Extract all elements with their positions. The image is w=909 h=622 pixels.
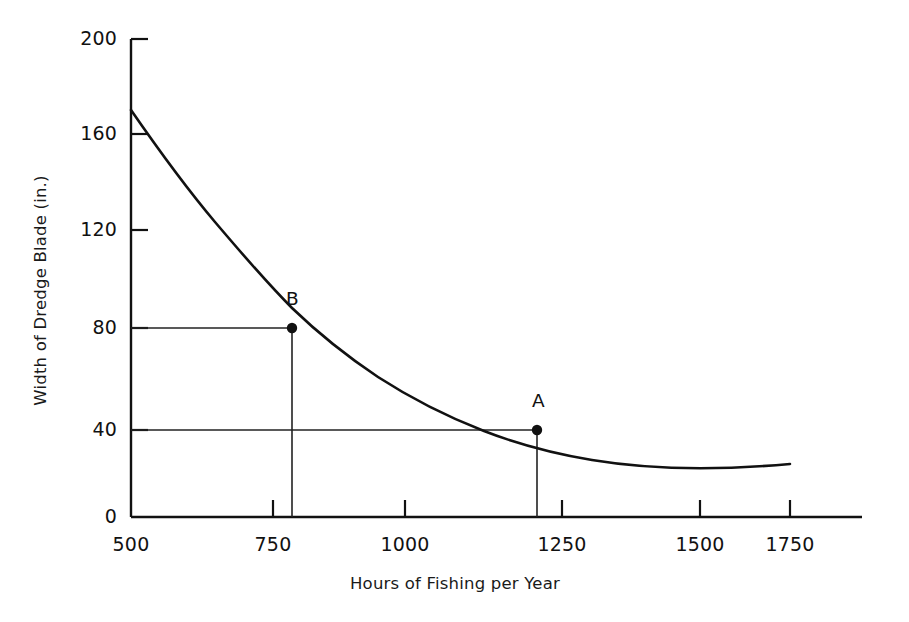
guide-lines-point-a: [131, 430, 537, 517]
data-curve: [131, 110, 790, 468]
guide-lines-point-b: [131, 328, 292, 517]
y-axis-ticks: [131, 39, 148, 430]
data-point-a-marker[interactable]: [532, 425, 542, 435]
data-point-b-label: B: [286, 288, 299, 309]
axis-lines: [131, 39, 862, 517]
x-tick-label-1750: 1750: [740, 533, 840, 555]
x-axis-title: Hours of Fishing per Year: [175, 574, 735, 593]
chart-figure: 200 160 120 80 40 0 500 750 1000 1250 15…: [0, 0, 909, 622]
chart-canvas: [0, 0, 909, 622]
x-tick-label-1250: 1250: [512, 533, 612, 555]
x-tick-label-1000: 1000: [355, 533, 455, 555]
x-tick-label-1500: 1500: [650, 533, 750, 555]
data-point-a-label: A: [532, 390, 545, 411]
y-axis-title: Width of Dredge Blade (in.): [31, 111, 50, 471]
x-tick-label-500: 500: [81, 533, 181, 555]
y-tick-label-0: 0: [25, 505, 117, 527]
x-axis-ticks: [273, 500, 790, 517]
data-point-b-marker[interactable]: [287, 323, 297, 333]
x-tick-label-750: 750: [223, 533, 323, 555]
y-tick-label-200: 200: [25, 27, 117, 49]
